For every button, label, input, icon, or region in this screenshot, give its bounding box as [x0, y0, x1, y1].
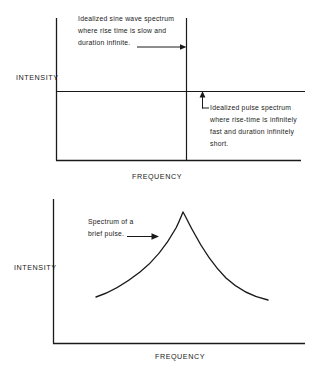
brief-pulse-annotation-line-2: brief pulse. [88, 230, 124, 238]
chart2-y-axis-label: INTENSITY [14, 263, 57, 272]
pulse-annotation-line-1: Idealized pulse spectrum [210, 104, 291, 112]
pulse-annotation-line-4: short. [210, 140, 229, 147]
spectrum-figure: INTENSITY FREQUENCY Idealized sine wave … [0, 0, 318, 367]
pulse-annotation-line-2: where rise-time is infinitely [209, 116, 297, 124]
sine-wave-annotation-line-3: duration infinite. [78, 39, 131, 46]
figure-canvas: INTENSITY FREQUENCY Idealized sine wave … [0, 0, 318, 367]
pulse-annotation: Idealized pulse spectrum where rise-time… [200, 91, 298, 147]
chart1-y-axis-label: INTENSITY [16, 73, 59, 82]
brief-pulse-arrow-icon [152, 233, 160, 240]
brief-pulse-annotation-line-1: Spectrum of a [88, 218, 134, 226]
chart-idealized-spectra: INTENSITY FREQUENCY Idealized sine wave … [16, 15, 305, 181]
sine-wave-arrow-icon [180, 44, 187, 50]
brief-pulse-annotation: Spectrum of a brief pulse. [88, 218, 159, 240]
chart-brief-pulse-spectrum: INTENSITY FREQUENCY Spectrum of a brief … [14, 199, 305, 361]
brief-pulse-curve [96, 212, 268, 300]
sine-wave-annotation-line-1: Idealized sine wave spectrum [78, 15, 174, 23]
pulse-annotation-line-3: fast and duration infinitely [210, 128, 294, 136]
sine-wave-annotation-line-2: where rise time is slow and [77, 27, 166, 34]
sine-wave-annotation: Idealized sine wave spectrum where rise … [77, 15, 187, 50]
chart2-x-axis-label: FREQUENCY [155, 352, 205, 361]
chart1-x-axis-label: FREQUENCY [132, 172, 182, 181]
